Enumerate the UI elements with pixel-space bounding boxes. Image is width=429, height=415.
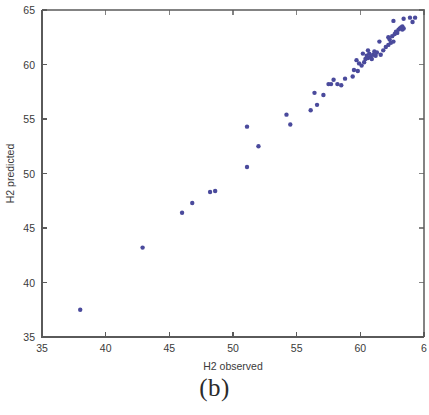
- x-axis-tick-labels: 3540455055606: [36, 342, 427, 354]
- y-tick-label: 55: [23, 113, 35, 125]
- data-point: [350, 74, 354, 78]
- y-tick-label: 65: [23, 4, 35, 16]
- data-point: [401, 26, 405, 30]
- data-point: [208, 190, 212, 194]
- data-point: [190, 201, 194, 205]
- data-point: [410, 20, 414, 24]
- data-point: [401, 17, 405, 21]
- x-tick-label: 55: [291, 342, 303, 354]
- data-point: [256, 144, 260, 148]
- data-point: [361, 51, 365, 55]
- data-point: [357, 61, 361, 65]
- data-point: [308, 108, 312, 112]
- data-point: [140, 245, 144, 249]
- data-point: [180, 211, 184, 215]
- data-point: [379, 52, 383, 56]
- data-point: [284, 112, 288, 116]
- data-point: [245, 124, 249, 128]
- data-point: [391, 39, 395, 43]
- y-tick-label: 60: [23, 59, 35, 71]
- y-tick-label: 35: [23, 331, 35, 343]
- data-point: [366, 48, 370, 52]
- data-point: [321, 93, 325, 97]
- data-point: [78, 308, 82, 312]
- data-point: [377, 39, 381, 43]
- figure-panel: 3540455055606 35404550556065 H2 observed…: [0, 0, 429, 415]
- y-tick-label: 45: [23, 222, 35, 234]
- data-point: [391, 19, 395, 23]
- y-tick-label: 50: [23, 168, 35, 180]
- figure-caption: (b): [0, 374, 429, 402]
- x-tick-label: 35: [36, 342, 48, 354]
- data-point: [343, 76, 347, 80]
- data-point: [356, 69, 360, 73]
- data-points-group: [78, 15, 417, 312]
- data-point: [352, 68, 356, 72]
- data-point: [370, 57, 374, 61]
- x-tick-label: 50: [227, 342, 239, 354]
- data-point: [329, 82, 333, 86]
- data-point: [375, 50, 379, 54]
- data-point: [245, 165, 249, 169]
- data-point: [312, 91, 316, 95]
- x-tick-label: 60: [354, 342, 366, 354]
- x-axis-title: H2 observed: [203, 360, 263, 372]
- scatter-plot: 3540455055606 35404550556065 H2 observed…: [0, 0, 429, 415]
- data-point: [339, 83, 343, 87]
- data-point: [288, 122, 292, 126]
- data-point: [315, 103, 319, 107]
- data-point: [386, 35, 390, 39]
- data-point: [408, 15, 412, 19]
- y-axis-title: H2 predicted: [4, 144, 16, 204]
- data-point: [213, 189, 217, 193]
- y-tick-label: 40: [23, 277, 35, 289]
- x-tick-label: 40: [100, 342, 112, 354]
- x-tick-label: 6: [421, 342, 427, 354]
- y-axis-tick-labels: 35404550556065: [23, 4, 35, 343]
- data-point: [413, 15, 417, 19]
- data-point: [331, 78, 335, 82]
- x-tick-label: 45: [163, 342, 175, 354]
- data-point: [335, 82, 339, 86]
